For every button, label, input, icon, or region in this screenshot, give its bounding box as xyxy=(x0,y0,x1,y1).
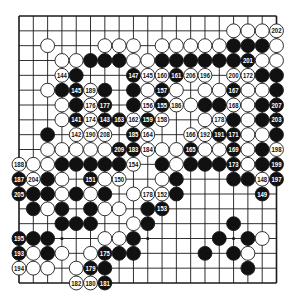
black-stone xyxy=(184,54,198,68)
move-number: 197 xyxy=(272,176,282,183)
stone-circle xyxy=(241,39,255,53)
stone-circle xyxy=(84,157,98,171)
move-number: 152 xyxy=(157,191,167,198)
stone-circle xyxy=(41,246,55,260)
black-stone xyxy=(84,217,98,231)
stone-circle xyxy=(98,39,112,53)
stone-circle xyxy=(169,187,183,201)
stone-circle xyxy=(69,68,83,82)
white-stone xyxy=(241,24,255,38)
stone-circle xyxy=(112,39,126,53)
black-stone xyxy=(169,187,183,201)
stone-circle xyxy=(212,39,226,53)
stone-circle xyxy=(141,202,155,216)
move-number: 164 xyxy=(143,131,153,138)
black-stone xyxy=(55,83,69,97)
stone-circle xyxy=(270,83,284,97)
black-stone xyxy=(84,157,98,171)
white-stone xyxy=(41,143,55,157)
white-stone xyxy=(126,217,140,231)
white-stone xyxy=(241,113,255,127)
black-stone xyxy=(270,83,284,97)
white-stone xyxy=(141,83,155,97)
white-stone xyxy=(227,24,241,38)
white-stone: 152 xyxy=(155,187,169,201)
stone-circle xyxy=(227,54,241,68)
black-stone xyxy=(41,246,55,260)
move-number: 198 xyxy=(272,146,282,153)
black-stone xyxy=(41,172,55,186)
stone-circle xyxy=(41,39,55,53)
move-number: 207 xyxy=(272,102,282,109)
move-number: 176 xyxy=(86,102,96,109)
black-stone xyxy=(41,187,55,201)
black-stone xyxy=(241,39,255,53)
move-number: 161 xyxy=(171,72,181,79)
stone-circle xyxy=(212,157,226,171)
white-stone: 192 xyxy=(198,128,212,142)
stone-circle xyxy=(55,246,69,260)
black-stone: 193 xyxy=(12,246,26,260)
stone-circle xyxy=(55,157,69,171)
black-stone: 153 xyxy=(155,202,169,216)
white-stone: 148 xyxy=(255,172,269,186)
stone-circle xyxy=(112,246,126,260)
white-stone xyxy=(69,143,83,157)
white-stone xyxy=(55,187,69,201)
move-number: 193 xyxy=(14,250,24,257)
white-stone: 180 xyxy=(84,276,98,290)
stone-circle xyxy=(112,202,126,216)
stone-circle xyxy=(126,217,140,231)
white-stone xyxy=(26,246,40,260)
black-stone xyxy=(255,68,269,82)
black-stone xyxy=(112,157,126,171)
black-stone xyxy=(55,217,69,231)
star-point xyxy=(232,237,235,240)
stone-circle xyxy=(84,187,98,201)
stone-circle xyxy=(98,232,112,246)
stone-circle xyxy=(198,54,212,68)
black-stone xyxy=(55,157,69,171)
black-stone xyxy=(227,54,241,68)
black-stone: 181 xyxy=(98,276,112,290)
move-number: 156 xyxy=(143,102,153,109)
white-stone xyxy=(184,98,198,112)
stone-circle xyxy=(255,24,269,38)
stone-circle xyxy=(241,98,255,112)
move-number: 194 xyxy=(14,265,24,272)
white-stone xyxy=(126,54,140,68)
white-stone: 156 xyxy=(141,98,155,112)
stone-circle xyxy=(141,217,155,231)
stone-circle xyxy=(41,202,55,216)
stone-circle xyxy=(69,217,83,231)
move-number: 157 xyxy=(157,87,167,94)
black-stone xyxy=(270,128,284,142)
black-stone: 187 xyxy=(12,172,26,186)
stone-circle xyxy=(98,187,112,201)
move-number: 158 xyxy=(157,116,167,123)
stone-circle xyxy=(84,217,98,231)
black-stone xyxy=(141,217,155,231)
white-stone xyxy=(255,24,269,38)
black-stone xyxy=(84,54,98,68)
white-stone: 162 xyxy=(126,113,140,127)
stone-circle xyxy=(155,39,169,53)
stone-circle xyxy=(227,172,241,186)
black-stone xyxy=(126,83,140,97)
white-stone xyxy=(241,143,255,157)
black-stone: 149 xyxy=(255,187,269,201)
white-stone: 196 xyxy=(198,68,212,82)
move-number: 168 xyxy=(229,102,239,109)
white-stone xyxy=(255,128,269,142)
white-stone xyxy=(55,54,69,68)
move-number: 177 xyxy=(100,102,110,109)
stone-circle xyxy=(26,187,40,201)
black-stone: 201 xyxy=(241,54,255,68)
stone-circle xyxy=(255,232,269,246)
white-stone xyxy=(255,54,269,68)
stone-circle xyxy=(169,157,183,171)
stone-circle xyxy=(112,54,126,68)
stone-circle xyxy=(227,24,241,38)
black-stone: 199 xyxy=(270,157,284,171)
stone-circle xyxy=(126,232,140,246)
